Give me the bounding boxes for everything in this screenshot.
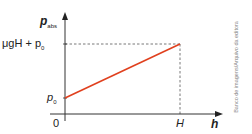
- y-tick-label-top: μgH + p0: [2, 37, 44, 51]
- y-top-value-main: μgH + p: [2, 37, 41, 49]
- pressure-line: [65, 44, 180, 98]
- y-axis-label: pabs: [40, 14, 57, 29]
- y-top-value-sub: 0: [41, 45, 44, 51]
- origin-label: 0: [53, 117, 59, 129]
- y-axis-label-sub: abs: [47, 23, 57, 29]
- image-credit: Banco de imagens/Arquivo da editora: [233, 21, 239, 113]
- y-tick-label-p0: p0: [47, 91, 56, 105]
- chart-canvas: [0, 0, 252, 134]
- p0-sub: 0: [53, 99, 56, 105]
- x-axis-label: h: [211, 117, 218, 131]
- x-tick-label-H: H: [176, 117, 184, 129]
- y-axis-arrow-icon: [62, 12, 68, 20]
